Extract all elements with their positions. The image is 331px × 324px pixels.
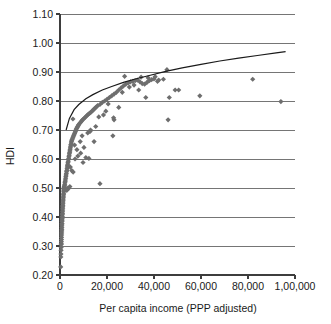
data-point: [78, 139, 83, 144]
y-tick-label: 0.60: [33, 153, 54, 165]
data-point: [81, 145, 86, 150]
data-point: [278, 99, 283, 104]
x-tick-label: 1,00,000: [275, 280, 316, 292]
y-tick-label: 0.40: [33, 211, 54, 223]
y-tick-label: 0.30: [33, 240, 54, 252]
chart-figure: 0.200.300.400.500.600.700.800.901.001.10…: [0, 0, 331, 324]
data-point: [70, 116, 75, 121]
data-point: [91, 139, 96, 144]
data-point: [74, 147, 79, 152]
data-markers: [58, 67, 283, 269]
data-point: [136, 87, 141, 92]
data-point: [143, 95, 148, 100]
x-axis-title: Per capita income (PPP adjusted): [99, 302, 256, 314]
x-tick-label: 0: [57, 280, 63, 292]
data-point: [93, 124, 98, 129]
x-tick-label: 20,000: [91, 280, 123, 292]
y-tick-label: 0.80: [33, 95, 54, 107]
x-tick-label: 40,000: [138, 280, 170, 292]
x-tick-labels: 020,00040,00060,00080,0001,00,000: [57, 280, 316, 292]
y-axis-title: HDI: [4, 147, 16, 165]
data-point: [127, 84, 132, 89]
data-point: [79, 133, 84, 138]
y-tick-label: 0.70: [33, 124, 54, 136]
scatter-plot: 0.200.300.400.500.600.700.800.901.001.10…: [0, 0, 331, 324]
y-tick-label: 0.90: [33, 66, 54, 78]
x-tick-label: 60,000: [185, 280, 217, 292]
y-tick-label: 1.10: [33, 8, 54, 20]
data-point: [197, 93, 202, 98]
data-point: [110, 133, 115, 138]
data-point: [116, 105, 121, 110]
data-point: [106, 101, 111, 106]
data-point: [166, 117, 171, 122]
data-point: [122, 74, 127, 79]
data-point: [161, 77, 166, 82]
y-tick-label: 1.00: [33, 37, 54, 49]
data-point: [250, 77, 255, 82]
y-tick-label: 0.50: [33, 182, 54, 194]
x-tick-marks: [60, 275, 295, 279]
y-tick-marks: [56, 14, 60, 275]
data-point: [176, 87, 181, 92]
data-point: [80, 160, 85, 165]
data-point: [58, 264, 63, 269]
y-tick-label: 0.20: [33, 269, 54, 281]
data-point: [96, 114, 101, 119]
x-tick-label: 80,000: [232, 280, 264, 292]
gridlines: [60, 14, 295, 275]
y-tick-labels: 0.200.300.400.500.600.700.800.901.001.10: [33, 8, 54, 281]
data-point: [97, 181, 102, 186]
data-point: [167, 95, 172, 100]
